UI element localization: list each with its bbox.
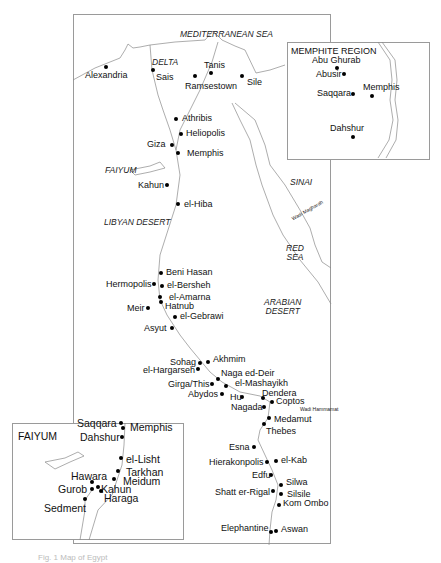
main-site-label-girga-this: Girga/This: [168, 380, 210, 389]
main-site-marker-girga-this: [210, 382, 214, 386]
main-site-label-hierakonpolis: Hierakonpolis: [209, 458, 264, 467]
main-site-label-athribis: Athribis: [182, 114, 212, 123]
faiyum-site-label-dahshur: Dahshur: [80, 432, 120, 443]
main-site-label-el-hargarseh: el-Hargarseh: [143, 366, 195, 375]
main-site-marker-medamut: [267, 416, 271, 420]
memphite-site-label-memphis: Memphis: [363, 83, 400, 92]
main-site-label-el-bersheh: el-Bersheh: [167, 281, 211, 290]
main-site-marker-kom-ombo: [277, 503, 281, 507]
main-site-marker-akhmim: [206, 360, 210, 364]
region-label-mediterranean: MEDITERRANEAN SEA: [180, 30, 273, 39]
main-site-marker-shatt-er-rigal: [271, 489, 275, 493]
main-site-marker-sais: [151, 68, 155, 72]
region-label-faiyum: FAIYUM: [105, 166, 136, 175]
memphite-site-label-abu-ghurab: Abu Ghurab: [312, 56, 361, 65]
main-site-marker-silsile: [279, 492, 283, 496]
main-site-marker-aswan: [274, 529, 278, 533]
main-site-label-hatnub: Hatnub: [165, 302, 194, 311]
main-site-marker-giza: [170, 143, 174, 147]
main-site-marker-alexandria: [104, 65, 108, 69]
faiyum-site-marker-dahshur: [120, 435, 124, 439]
main-site-label-meir: Meir: [127, 304, 145, 313]
memphite-site-marker-dahshur: [351, 135, 355, 139]
faiyum-site-marker-gurob: [90, 487, 94, 491]
main-site-label-medamut: Medamut: [274, 415, 312, 424]
main-site-marker-abydos: [220, 392, 224, 396]
main-site-marker-hatnub: [159, 300, 163, 304]
main-site-label-heliopolis: Heliopolis: [186, 129, 225, 138]
faiyum-site-label-haraga: Haraga: [104, 493, 138, 504]
main-site-label-el-kab: el-Kab: [281, 456, 307, 465]
faiyum-site-marker-meidum: [112, 477, 116, 481]
main-site-label-giza: Giza: [147, 140, 166, 149]
main-site-label-asyut: Asyut: [144, 324, 167, 333]
memphite-site-label-saqqara: Saqqara: [317, 89, 351, 98]
main-site-label-hermopolis: Hermopolis: [106, 280, 152, 289]
main-site-label-el-mashayikh: el-Mashayikh: [235, 379, 288, 388]
figure-caption: Fig. 1 Map of Egypt: [38, 553, 107, 562]
main-site-marker-sile: [240, 74, 244, 78]
region-label-libyan-desert: LIBYAN DESERT: [104, 218, 170, 227]
faiyum-site-label-memphis: Memphis: [130, 422, 173, 433]
main-site-marker-el-kab: [274, 459, 278, 463]
main-site-label-silwa: Silwa: [286, 478, 308, 487]
memphite-site-label-dahshur: Dahshur: [330, 124, 364, 133]
main-site-label-thebes: Thebes: [266, 427, 296, 436]
main-site-label-el-gebrawi: el-Gebrawi: [180, 312, 224, 321]
main-site-label-sais: Sais: [156, 73, 174, 82]
region-label-arabian-desert: ARABIANDESERT: [264, 298, 301, 316]
main-site-label-coptos: Coptos: [276, 397, 305, 406]
main-site-marker-el-bersheh: [160, 284, 164, 288]
main-site-label-el-hiba: el-Hiba: [184, 200, 213, 209]
main-site-marker-nagada: [262, 405, 266, 409]
faiyum-site-label-el-lisht: el-Lisht: [126, 454, 160, 465]
main-site-marker-hierakonpolis: [265, 460, 269, 464]
main-site-marker-silwa: [279, 483, 283, 487]
faiyum-site-label-gurob: Gurob: [58, 484, 87, 495]
main-site-marker-tanis: [209, 71, 213, 75]
main-site-label-abydos: Abydos: [188, 390, 218, 399]
memphite-site-marker-abusir: [342, 72, 346, 76]
main-site-label-hu: Hu: [230, 393, 242, 402]
faiyum-site-marker-sedment: [83, 497, 87, 501]
main-site-marker-el-gebrawi: [173, 315, 177, 319]
region-label-wadi-hammamat: Wadi Hammamat: [300, 407, 338, 412]
main-site-label-elephantine: Elephantine: [221, 524, 269, 533]
main-site-label-esna: Esna: [229, 443, 250, 452]
main-site-marker-el-amarna: [158, 295, 162, 299]
main-site-marker-memphis: [176, 151, 180, 155]
region-label-sinai: SINAI: [290, 178, 312, 187]
faiyum-site-marker-haraga: [99, 489, 103, 493]
memphite-site-marker-memphis: [370, 94, 374, 98]
main-site-label-ramsestown: Ramsestown: [185, 82, 237, 91]
faiyum-site-marker-el-lisht: [119, 456, 123, 460]
faiyum-site-label-sedment: Sedment: [44, 503, 86, 514]
main-site-label-kahun: Kahun: [138, 181, 164, 190]
faiyum-site-marker-saqqara: [119, 421, 123, 425]
main-site-marker-esna: [252, 445, 256, 449]
main-site-marker-hermopolis: [152, 282, 156, 286]
main-site-marker-athribis: [174, 117, 178, 121]
faiyum-site-marker-memphis: [121, 426, 125, 430]
main-site-label-tanis: Tanis: [204, 61, 225, 70]
main-site-marker-ramsestown: [193, 74, 197, 78]
faiyum-site-label-saqqara: Saqqara: [77, 418, 117, 429]
main-site-marker-meir: [146, 306, 150, 310]
main-site-label-memphis: Memphis: [187, 149, 224, 158]
main-site-marker-el-mashayikh: [224, 384, 228, 388]
region-label-delta: DELTA: [152, 58, 178, 67]
main-site-label-nagada: Nagada: [231, 403, 263, 412]
main-site-label-sile: Sile: [247, 78, 262, 87]
main-site-marker-coptos: [270, 400, 274, 404]
main-site-marker-elephantine: [269, 530, 273, 534]
main-site-marker-kahun: [165, 183, 169, 187]
main-site-marker-asyut: [170, 326, 174, 330]
main-site-label-aswan: Aswan: [281, 525, 308, 534]
faiyum-site-marker-tarkhan: [116, 469, 120, 473]
main-site-label-alexandria: Alexandria: [85, 71, 128, 80]
main-site-marker-heliopolis: [179, 132, 183, 136]
region-label-red-sea: REDSEA: [286, 244, 304, 262]
main-site-marker-el-hiba: [176, 202, 180, 206]
main-site-marker-beni-hasan: [159, 271, 163, 275]
faiyum-inset-title: FAIYUM: [18, 430, 57, 442]
